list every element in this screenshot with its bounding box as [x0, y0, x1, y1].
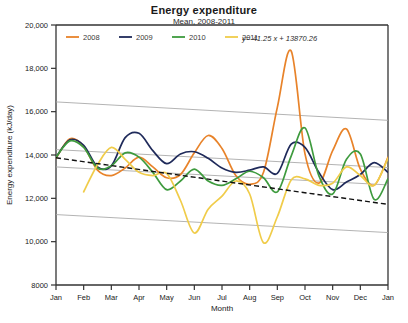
- y-axis-ticks: 800010,00012,00014,00016,00018,00020,000: [25, 21, 56, 290]
- x-tick-label: May: [160, 293, 174, 302]
- plot-area: 800010,00012,00014,00016,00018,00020,000…: [0, 0, 408, 323]
- y-tick-label: 20,000: [25, 21, 48, 30]
- x-tick-label: Aug: [243, 293, 256, 302]
- x-axis-ticks: JanFebMarAprMayJunJulAugSepOctNovDecJan: [50, 285, 394, 302]
- x-axis-title: Month: [211, 304, 233, 313]
- chart-legend[interactable]: 2008200920102011: [66, 33, 258, 42]
- y-tick-label: 12,000: [25, 194, 48, 203]
- y-tick-label: 8000: [31, 281, 48, 290]
- x-tick-label: Feb: [77, 293, 90, 302]
- x-tick-label: Dec: [354, 293, 368, 302]
- y-tick-label: 10,000: [25, 237, 48, 246]
- x-tick-label: Sep: [271, 293, 284, 302]
- regression-equation-label: y=-41.25 x + 13870.26: [241, 34, 318, 43]
- x-tick-label: Jun: [188, 293, 200, 302]
- y-tick-label: 18,000: [25, 64, 48, 73]
- axis-frame: [56, 25, 388, 285]
- series-line-2011: [84, 147, 388, 243]
- x-tick-label: Jan: [382, 293, 394, 302]
- legend-label-2008[interactable]: 2008: [83, 33, 100, 42]
- chart-figure: Energy expenditure Mean, 2008-2011 80001…: [0, 0, 408, 323]
- series-lines: [56, 50, 388, 243]
- legend-label-2009[interactable]: 2009: [136, 33, 153, 42]
- x-tick-label: Jan: [50, 293, 62, 302]
- x-tick-label: Nov: [326, 293, 340, 302]
- x-tick-label: Mar: [105, 293, 118, 302]
- y-tick-label: 16,000: [25, 107, 48, 116]
- x-tick-label: Jul: [217, 293, 227, 302]
- y-tick-label: 14,000: [25, 151, 48, 160]
- x-tick-label: Apr: [133, 293, 145, 302]
- y-axis-title: Energy expenditure (kJ/day): [5, 105, 14, 205]
- legend-label-2010[interactable]: 2010: [189, 33, 206, 42]
- x-tick-label: Oct: [299, 293, 312, 302]
